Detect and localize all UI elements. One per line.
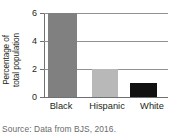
x-tick-label-hispanic: Hispanic [82, 100, 132, 112]
y-axis-tick-labels: 6 4 2 0 [0, 0, 37, 139]
y-tick-label-2: 2 [5, 65, 37, 74]
y-tick-label-4: 4 [5, 37, 37, 46]
x-tick-label-white: White [132, 100, 172, 112]
y-tick-label-0: 0 [5, 93, 37, 102]
x-axis-tick-labels: Black Hispanic White [40, 100, 172, 114]
x-axis-line [44, 97, 168, 98]
bar-chart-figure: Percentage of total population 6 4 2 0 B… [0, 0, 172, 139]
bar-white [130, 83, 157, 97]
source-caption: Source: Data from BJS, 2016. [2, 124, 116, 135]
plot-area [44, 13, 168, 97]
y-tick-label-6: 6 [5, 9, 37, 18]
bar-hispanic [92, 69, 118, 97]
bar-black [48, 13, 77, 97]
x-tick-label-black: Black [40, 100, 82, 112]
